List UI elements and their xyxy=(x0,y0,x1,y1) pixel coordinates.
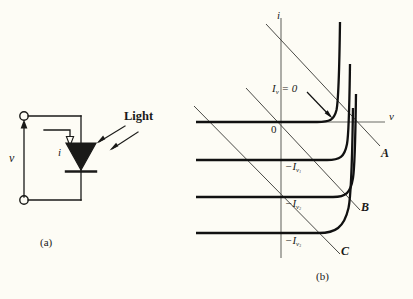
curve-iv-2 xyxy=(196,94,356,197)
level-label-3: −Iν3 xyxy=(285,234,301,248)
iv-zero-label: Iν = 0 xyxy=(272,82,297,95)
load-line-label-a: A xyxy=(381,146,389,161)
load-line-label-b: B xyxy=(361,200,369,215)
i-axis-label: i xyxy=(277,9,280,21)
panel-b-chart-drawing xyxy=(0,0,413,299)
panel-b-caption: (b) xyxy=(316,270,329,282)
level-label-2: −Iν2 xyxy=(285,197,301,211)
figure-container: v i Light (a) i v 0 xyxy=(0,0,413,299)
v-axis-label: v xyxy=(389,110,394,122)
curve-iv-0 xyxy=(196,22,340,122)
load-line-c xyxy=(194,106,340,254)
load-line-label-c: C xyxy=(341,244,349,259)
origin-label: 0 xyxy=(271,123,277,135)
level-label-1: −Iν1 xyxy=(285,160,301,174)
